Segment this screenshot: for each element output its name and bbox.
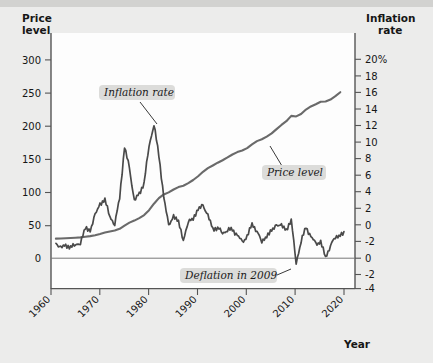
x-axis-ticks: 1960 1970 1980 1990 2000 2010 2020 — [27, 289, 346, 320]
right-tick-label: 0 — [365, 220, 371, 231]
left-tick-label: 200 — [22, 121, 41, 132]
x-tick-label: 1960 — [27, 294, 53, 320]
x-tick-label: 1970 — [75, 294, 101, 320]
left-tick-label: 300 — [22, 55, 41, 66]
annotation-label: Deflation in 2009 — [184, 269, 277, 281]
right-axis-title-line2: rate — [378, 24, 402, 36]
right-tick-label: -2 — [365, 236, 375, 247]
right-tick-label: 18 — [365, 71, 378, 82]
right-tick-label: 10 — [365, 137, 378, 148]
right-tick-label: 14 — [365, 104, 378, 115]
annotation-deflation-2009: Deflation in 2009 — [180, 268, 291, 283]
price-level-inflation-chart: Price level Inflation rate Year 300 250 … — [0, 0, 433, 363]
right-tick-label: 6 — [365, 170, 371, 181]
left-tick-label: 0 — [35, 253, 41, 264]
chart-container: Price level Inflation rate Year 300 250 … — [0, 0, 433, 363]
left-tick-label: 250 — [22, 88, 41, 99]
annotation-label: Inflation rate — [103, 86, 174, 98]
left-axis-ticks: 300 250 200 150 100 50 0 — [22, 55, 51, 264]
right-tick-label: 4 — [365, 186, 371, 197]
left-tick-label: 100 — [22, 187, 41, 198]
x-tick-label: 1980 — [124, 294, 150, 320]
x-tick-label: 2020 — [320, 294, 346, 320]
right-axis-title-line1: Inflation — [366, 12, 416, 24]
x-tick-label: 2000 — [222, 294, 248, 320]
left-axis-title-line2: level — [22, 24, 50, 36]
left-tick-label: 150 — [22, 154, 41, 165]
x-tick-label: 1990 — [173, 294, 199, 320]
plot-area-background — [51, 33, 355, 288]
left-axis-title-line1: Price — [22, 12, 52, 24]
x-tick-label: 2010 — [271, 294, 297, 320]
right-tick-label: -2 — [365, 269, 375, 280]
right-tick-label: 2 — [365, 203, 371, 214]
right-tick-label: 20% — [365, 54, 387, 65]
left-tick-label: 50 — [28, 220, 41, 231]
right-tick-label: 8 — [365, 153, 371, 164]
right-axis-ticks: 20% 18 16 14 12 10 8 6 4 2 0 -2 0 -2 -4 — [355, 54, 387, 294]
annotation-label: Price level — [266, 166, 323, 178]
x-axis-title: Year — [343, 338, 371, 350]
right-tick-label: 16 — [365, 87, 378, 98]
right-tick-label: 0 — [365, 253, 371, 264]
right-tick-label: 12 — [365, 120, 378, 131]
right-tick-label: -4 — [365, 283, 375, 294]
